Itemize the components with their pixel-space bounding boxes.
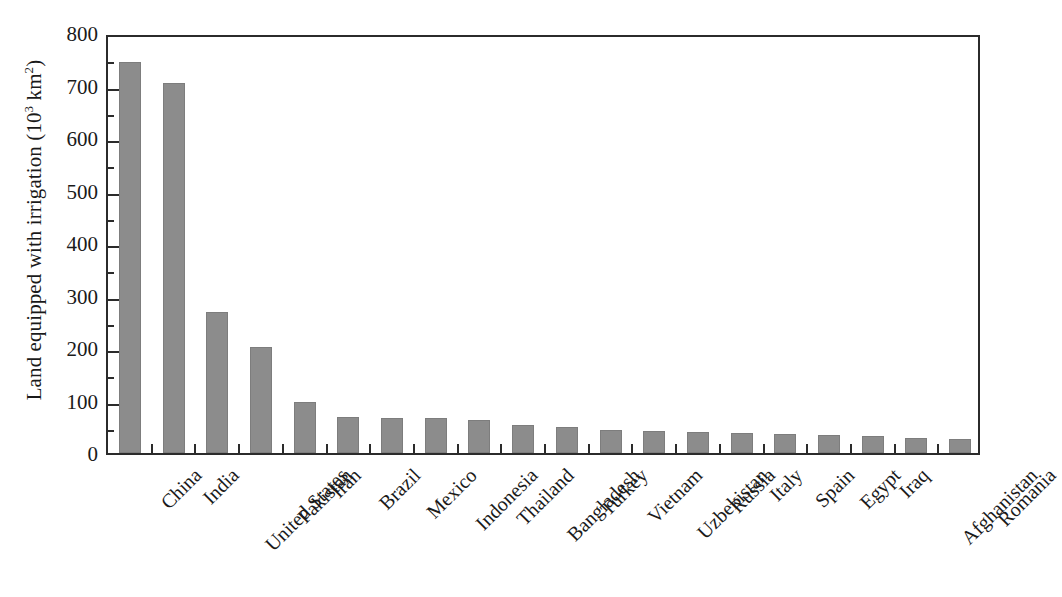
bar (600, 430, 622, 453)
bar (774, 434, 796, 453)
y-axis-tick-label: 100 (36, 392, 98, 413)
x-axis-tick (937, 444, 939, 453)
y-axis-minor-tick (108, 325, 114, 327)
x-axis-tick-label: Brazil (375, 461, 428, 514)
x-axis-tick-labels: ChinaIndiaUnited StatesPakistanIranBrazi… (106, 455, 980, 597)
y-axis-minor-tick (108, 220, 114, 222)
x-axis-tick (282, 444, 284, 453)
bar (556, 427, 578, 453)
bar (731, 433, 753, 453)
y-axis-tick-label: 400 (36, 234, 98, 255)
y-axis-tick-label: 800 (36, 24, 98, 45)
y-axis-minor-tick (108, 272, 114, 274)
y-axis-tick-label: 0 (36, 444, 98, 465)
x-axis-tick (719, 444, 721, 453)
bar (818, 435, 840, 453)
bar (687, 432, 709, 453)
y-axis-tick-labels: 8007006005004003002001000 (36, 0, 98, 597)
x-axis-tick (544, 444, 546, 453)
x-axis-tick-label: Spain (811, 461, 862, 512)
y-axis-minor-tick (108, 115, 114, 117)
x-axis-tick-label: India (198, 461, 245, 508)
y-axis-tick-label: 700 (36, 77, 98, 98)
x-axis-tick-label: Vietnam (643, 461, 709, 527)
bar (425, 418, 447, 453)
y-axis-title-sup-3: 3 (21, 106, 36, 113)
plot-area (106, 35, 980, 455)
bar (381, 418, 403, 453)
bar (294, 402, 316, 453)
bar (206, 312, 228, 453)
y-axis-major-tick (108, 404, 119, 406)
x-axis-tick (457, 444, 459, 453)
y-axis-minor-tick (108, 62, 114, 64)
y-axis-tick-label: 600 (36, 129, 98, 150)
x-axis-tick (369, 444, 371, 453)
x-axis-tick (894, 444, 896, 453)
y-axis-tick-label: 500 (36, 182, 98, 203)
x-axis-tick-label: China (156, 461, 208, 513)
x-axis-tick (238, 444, 240, 453)
y-axis-minor-tick (108, 377, 114, 379)
y-axis-major-tick (108, 246, 119, 248)
bar (163, 83, 185, 453)
x-axis-tick (806, 444, 808, 453)
plot-inner (108, 37, 978, 453)
x-axis-tick (151, 444, 153, 453)
bar (905, 438, 927, 453)
bar (512, 425, 534, 453)
bar (119, 62, 141, 453)
bar (949, 439, 971, 453)
x-axis-tick (326, 444, 328, 453)
y-axis-major-tick (108, 299, 119, 301)
bar (337, 417, 359, 453)
bar (862, 436, 884, 453)
x-axis-tick (500, 444, 502, 453)
bar (468, 420, 490, 453)
y-axis-minor-tick (108, 167, 114, 169)
x-axis-tick (675, 444, 677, 453)
y-axis-major-tick (108, 194, 119, 196)
x-axis-tick-label: Iraq (894, 461, 935, 502)
x-axis-tick (413, 444, 415, 453)
x-axis-tick (763, 444, 765, 453)
y-axis-tick-label: 300 (36, 287, 98, 308)
y-axis-title-sup-2: 2 (21, 67, 36, 74)
y-axis-major-tick (108, 141, 119, 143)
x-axis-tick (194, 444, 196, 453)
y-axis-major-tick (108, 89, 119, 91)
y-axis-major-tick (108, 351, 119, 353)
bar (643, 431, 665, 453)
y-axis-minor-tick (108, 430, 114, 432)
bar (250, 347, 272, 453)
x-axis-tick (588, 444, 590, 453)
x-axis-tick (850, 444, 852, 453)
x-axis-tick (631, 444, 633, 453)
y-axis-tick-label: 200 (36, 339, 98, 360)
